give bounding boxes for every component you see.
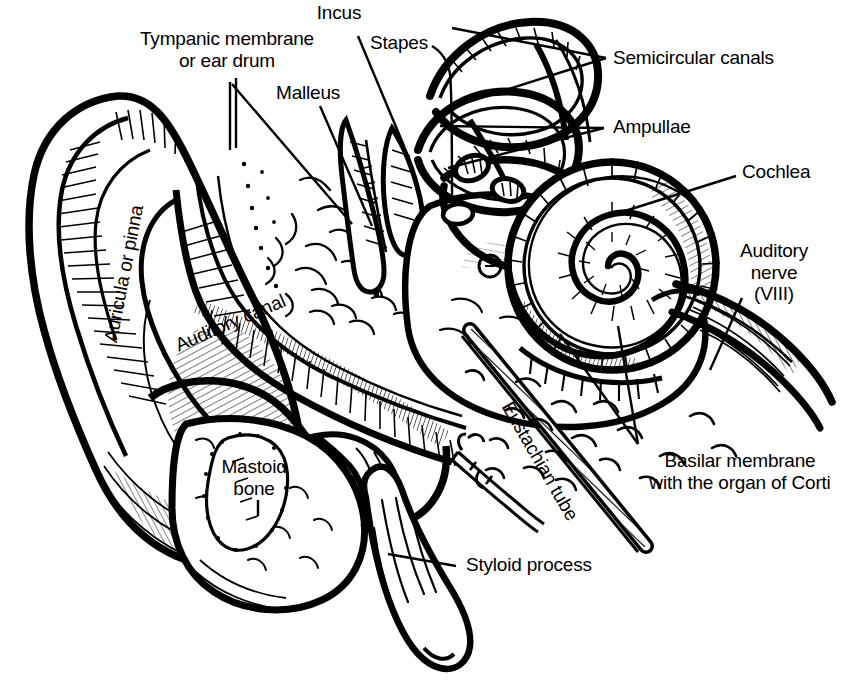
label-ampullae: Ampullae [613,116,691,138]
label-styloid-process: Styloid process [466,554,592,576]
label-semicircular-canals: Semicircular canals [613,47,774,69]
label-tympanic-membrane: Tympanic membrane or ear drum [120,28,334,71]
label-incus: Incus [296,2,382,24]
label-basilar-membrane: Basilar membrane with the organ of Corti [636,450,844,493]
label-auditory-nerve: Auditory nerve (VIII) [718,240,830,305]
leader-tympanic-3 [232,84,352,224]
label-cochlea: Cochlea [742,161,810,183]
label-malleus: Malleus [276,82,340,104]
canal-stipple [242,162,278,288]
label-mastoid-bone: Mastoid bone [204,456,304,499]
leader-ampullae-a [440,126,604,128]
ear-anatomy-illustration [0,0,844,688]
styloid-process-structure [364,467,470,669]
ear-anatomy-figure: Incus Tympanic membrane or ear drum Mall… [0,0,844,688]
label-stapes: Stapes [370,32,428,54]
